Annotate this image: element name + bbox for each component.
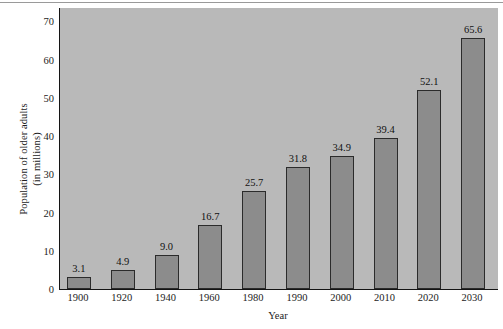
bar-value-label: 25.7: [245, 177, 263, 188]
bar: [242, 191, 266, 289]
y-axis-tick-label: 60: [28, 54, 54, 65]
x-axis-tick-label: 1900: [67, 292, 88, 303]
x-axis-tick-label: 1960: [199, 292, 220, 303]
bar: [374, 138, 398, 289]
bar: [286, 167, 310, 289]
x-axis-tick-label: 2000: [330, 292, 351, 303]
y-axis-tick-label: 10: [28, 245, 54, 256]
x-axis-tick-label: 2020: [418, 292, 439, 303]
bar-value-label: 16.7: [201, 211, 219, 222]
bar: [198, 225, 222, 289]
bar-value-label: 65.6: [464, 24, 482, 35]
x-axis-tick-label: 1980: [243, 292, 264, 303]
bar: [67, 277, 91, 289]
y-axis-tick-label: 50: [28, 92, 54, 103]
y-axis-tick-label: 20: [28, 207, 54, 218]
plot-area: 3.14.99.016.725.731.834.939.452.165.6: [59, 8, 498, 290]
bar: [461, 38, 485, 289]
x-axis-tick-label: 1940: [155, 292, 176, 303]
x-axis-tick-label: 2010: [374, 292, 395, 303]
top-divider-rule: [0, 2, 503, 3]
bar-value-label: 4.9: [116, 256, 129, 267]
bar-value-label: 52.1: [420, 76, 438, 87]
bar-value-label: 31.8: [289, 153, 307, 164]
bar-value-label: 9.0: [160, 241, 173, 252]
x-axis-tick-label: 1990: [286, 292, 307, 303]
bar: [155, 255, 179, 289]
x-axis-title: Year: [59, 310, 497, 321]
bar-value-label: 34.9: [333, 142, 351, 153]
bar: [111, 270, 135, 289]
bar-value-label: 39.4: [376, 124, 394, 135]
y-axis-tick-label: 40: [28, 131, 54, 142]
bar: [330, 156, 354, 289]
y-axis-tick-label-group: 010203040506070: [28, 8, 54, 303]
bar-value-label: 3.1: [72, 263, 85, 274]
bars-layer: 3.14.99.016.725.731.834.939.452.165.6: [60, 8, 498, 289]
y-axis-tick-label: 0: [28, 284, 54, 295]
x-axis-tick-label-group: 1900192019401960198019902000201020202030: [59, 292, 497, 308]
y-axis-tick-label: 30: [28, 169, 54, 180]
y-axis-tick-label: 70: [28, 16, 54, 27]
x-axis-tick-label: 1920: [111, 292, 132, 303]
x-axis-tick-label: 2030: [462, 292, 483, 303]
bar-chart-figure: Population of older adults (in millions)…: [0, 0, 503, 329]
bar: [417, 90, 441, 289]
